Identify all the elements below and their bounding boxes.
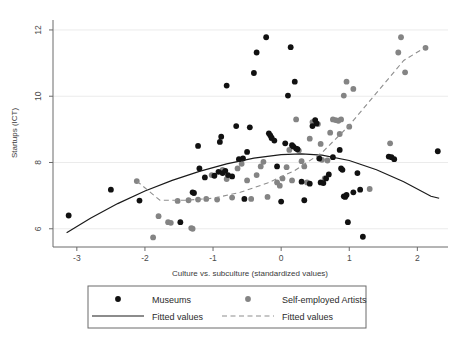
y-tick-label-8: 8 bbox=[33, 160, 43, 165]
data-point bbox=[156, 213, 162, 219]
data-point bbox=[435, 148, 441, 154]
data-point bbox=[318, 141, 324, 147]
data-point bbox=[355, 170, 361, 176]
data-point bbox=[292, 79, 298, 85]
axes bbox=[53, 20, 448, 247]
data-point bbox=[229, 174, 235, 180]
axis-ticks bbox=[49, 30, 417, 251]
data-point bbox=[274, 164, 280, 170]
data-point bbox=[248, 196, 254, 202]
data-point bbox=[357, 187, 363, 193]
series-points-museums bbox=[66, 34, 441, 239]
data-point bbox=[344, 79, 350, 85]
data-point bbox=[289, 177, 295, 183]
data-point bbox=[218, 134, 224, 140]
data-point bbox=[175, 198, 181, 204]
data-point bbox=[350, 189, 356, 195]
data-point bbox=[244, 149, 250, 155]
data-point bbox=[150, 234, 156, 240]
x-tick-label--3: -3 bbox=[73, 253, 81, 263]
y-tick-label-12: 12 bbox=[33, 25, 43, 35]
data-point bbox=[254, 172, 260, 178]
data-point bbox=[307, 181, 313, 187]
data-point bbox=[277, 183, 283, 189]
data-point bbox=[314, 120, 320, 126]
data-point bbox=[293, 117, 299, 123]
data-point bbox=[344, 192, 350, 198]
data-point bbox=[338, 117, 344, 123]
data-point bbox=[360, 234, 366, 240]
data-point bbox=[261, 159, 267, 165]
data-point bbox=[66, 213, 72, 219]
data-point bbox=[265, 194, 271, 200]
data-point bbox=[271, 138, 277, 144]
data-point bbox=[295, 146, 301, 152]
data-point bbox=[340, 167, 346, 173]
x-tick-label-1: 1 bbox=[347, 253, 352, 263]
data-point bbox=[367, 186, 373, 192]
data-point bbox=[233, 123, 239, 129]
data-point bbox=[254, 50, 260, 56]
axis-tick-labels: 681012-3-2-1012 bbox=[33, 25, 420, 263]
data-point bbox=[217, 139, 223, 145]
data-point bbox=[284, 164, 290, 170]
legend-marker bbox=[115, 296, 121, 302]
data-point bbox=[402, 69, 408, 75]
data-point bbox=[235, 166, 241, 172]
data-point bbox=[327, 130, 333, 136]
y-tick-label-6: 6 bbox=[33, 226, 43, 231]
legend-border bbox=[88, 286, 366, 328]
data-point bbox=[108, 187, 114, 193]
legend-label: Self-employed Artists bbox=[282, 295, 367, 305]
x-tick-label--1: -1 bbox=[209, 253, 217, 263]
data-point bbox=[316, 156, 322, 162]
x-tick-label-2: 2 bbox=[415, 253, 420, 263]
data-point bbox=[299, 158, 305, 164]
series-points-self-employed-artists bbox=[134, 34, 429, 240]
data-point bbox=[282, 140, 288, 146]
legend-label: Fitted values bbox=[152, 312, 204, 322]
data-point bbox=[190, 226, 196, 232]
data-point bbox=[177, 219, 183, 225]
legend-label: Fitted values bbox=[282, 312, 334, 322]
data-point bbox=[341, 93, 347, 99]
data-point bbox=[326, 172, 332, 178]
data-point bbox=[251, 70, 257, 76]
data-point bbox=[387, 140, 393, 146]
x-tick-label--2: -2 bbox=[141, 253, 149, 263]
data-point bbox=[241, 196, 247, 202]
data-point bbox=[285, 93, 291, 99]
data-point bbox=[168, 220, 174, 226]
data-point bbox=[325, 158, 331, 164]
data-point bbox=[288, 44, 294, 50]
fitted-line-museums bbox=[67, 154, 440, 233]
data-point bbox=[337, 147, 343, 153]
data-point bbox=[345, 219, 351, 225]
data-point bbox=[307, 136, 313, 142]
scatter-plot-figure: 681012-3-2-1012 Startups (ICT) Culture v… bbox=[0, 0, 455, 340]
data-point bbox=[398, 34, 404, 40]
data-point bbox=[278, 199, 284, 205]
x-tick-label-0: 0 bbox=[279, 253, 284, 263]
data-point bbox=[337, 131, 343, 137]
y-axis-title: Startups (ICT) bbox=[10, 108, 19, 159]
legend-label: Museums bbox=[152, 295, 192, 305]
data-point bbox=[263, 34, 269, 40]
data-point bbox=[391, 156, 397, 162]
data-point bbox=[299, 179, 305, 185]
chart-canvas: 681012-3-2-1012 Startups (ICT) Culture v… bbox=[0, 0, 455, 340]
legend-marker bbox=[245, 296, 251, 302]
data-point bbox=[224, 83, 230, 89]
data-point bbox=[395, 50, 401, 56]
y-tick-label-10: 10 bbox=[33, 91, 43, 101]
data-point bbox=[202, 175, 208, 181]
chart-legend: MuseumsSelf-employed ArtistsFitted value… bbox=[88, 286, 367, 328]
data-point bbox=[350, 86, 356, 92]
data-point bbox=[137, 198, 143, 204]
x-axis-title: Culture vs. subculture (standardized val… bbox=[172, 269, 328, 278]
data-point bbox=[247, 124, 253, 130]
data-point bbox=[229, 195, 235, 201]
data-point bbox=[191, 190, 197, 196]
data-point bbox=[195, 143, 201, 149]
data-point bbox=[301, 197, 307, 203]
